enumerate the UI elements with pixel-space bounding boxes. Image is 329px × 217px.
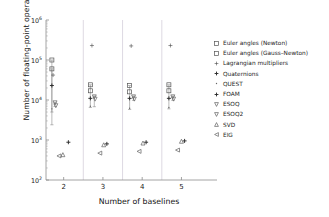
series-1 — [50, 67, 171, 94]
series-5 — [66, 139, 186, 146]
legend-item[interactable]: SVD — [210, 120, 328, 130]
legend-item[interactable]: QUEST — [210, 79, 328, 89]
legend-item[interactable]: EIG — [210, 130, 328, 140]
y-tick-1e2: 102 — [22, 176, 42, 185]
series-8 — [61, 139, 184, 156]
legend-item-label: ESOQ2 — [223, 111, 243, 117]
legend-item[interactable]: Euler angles (Gauss–Newton) — [210, 48, 328, 58]
plus-icon — [210, 89, 223, 99]
series-4 — [51, 105, 169, 109]
plus-thin-icon — [210, 58, 223, 68]
series-2 — [51, 44, 172, 78]
series-0 — [50, 58, 171, 88]
legend-item-label: SVD — [223, 122, 235, 128]
square-open-icon — [210, 38, 223, 48]
triangle-down-open-icon — [210, 99, 223, 109]
figure-container: Number of floating-point operations Numb… — [0, 0, 329, 217]
legend-item[interactable]: Quaternions — [210, 69, 328, 79]
plus-icon — [210, 69, 223, 79]
square-open-icon — [210, 48, 223, 58]
triangle-down-open-icon — [210, 109, 223, 119]
triangle-up-open-icon — [210, 120, 223, 130]
legend-item-label: Euler angles (Gauss–Newton) — [223, 50, 308, 56]
y-tick-1e3: 103 — [22, 136, 42, 145]
series-3 — [50, 84, 171, 101]
legend-item[interactable]: FOAM — [210, 89, 328, 99]
chart-legend: Euler angles (Newton)Euler angles (Gauss… — [210, 38, 328, 140]
x-tick-5: 5 — [171, 183, 191, 191]
legend-item-label: Lagrangian multipliers — [223, 60, 288, 66]
series-7 — [54, 97, 176, 108]
legend-item[interactable]: ESOQ2 — [210, 109, 328, 119]
legend-item-label: Euler angles (Newton) — [223, 40, 287, 46]
none-icon — [210, 79, 223, 89]
triangle-left-open-icon — [210, 130, 223, 140]
legend-item[interactable]: Lagrangian multipliers — [210, 58, 328, 68]
legend-item-label: QUEST — [223, 81, 243, 87]
y-tick-1e4: 104 — [22, 96, 42, 105]
legend-item[interactable]: ESOQ — [210, 99, 328, 109]
legend-item-label: FOAM — [223, 91, 240, 97]
y-tick-1e6: 106 — [22, 16, 42, 25]
y-tick-1e5: 105 — [22, 56, 42, 65]
legend-item-label: ESOQ — [223, 101, 239, 107]
x-tick-4: 4 — [132, 183, 152, 191]
series-6 — [53, 95, 175, 105]
legend-item-label: EIG — [223, 132, 233, 138]
legend-item-label: Quaternions — [223, 71, 258, 77]
x-tick-3: 3 — [93, 183, 113, 191]
legend-item[interactable]: Euler angles (Newton) — [210, 38, 328, 48]
x-tick-2: 2 — [54, 183, 74, 191]
series-9 — [57, 148, 180, 158]
x-axis-label: Number of baselines — [64, 197, 214, 206]
